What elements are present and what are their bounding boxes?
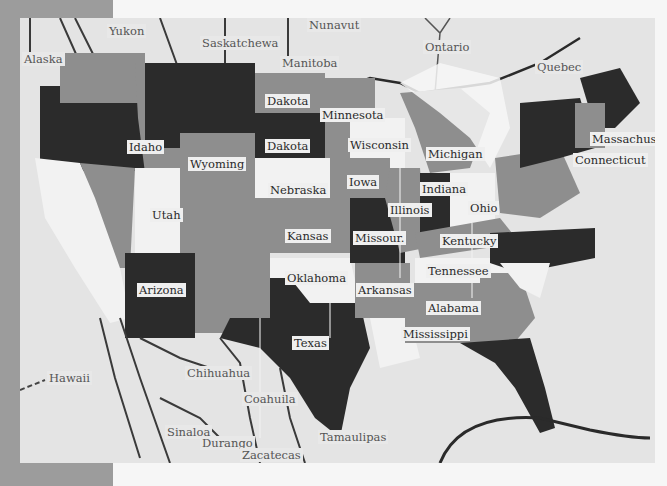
map-label-texas: Texas [292, 336, 329, 350]
map-label-indiana: Indiana [420, 182, 468, 196]
map-label-alaska: Alaska [22, 52, 65, 66]
map-label-kentucky: Kentucky [440, 234, 498, 248]
map-label-chihuahua: Chihuahua [185, 366, 252, 380]
map-shapes [20, 18, 655, 463]
map-label-yukon: Yukon [107, 24, 146, 38]
map-label-wisconsin: Wisconsin [348, 138, 411, 152]
map-label-nunavut: Nunavut [307, 18, 361, 32]
frame-top-border [0, 0, 113, 18]
map-label-alabama: Alabama [426, 301, 481, 315]
map-label-north-dakota: Dakota [265, 94, 310, 108]
map-label-michigan: Michigan [426, 147, 485, 161]
map-painting: Alaska Yukon Saskatchewa Nunavut Manitob… [20, 18, 655, 463]
map-label-wyoming: Wyoming [188, 157, 246, 171]
map-label-saskatchewan: Saskatchewa [200, 36, 280, 50]
map-label-kansas: Kansas [285, 229, 331, 243]
map-label-arkansas: Arkansas [356, 283, 414, 297]
map-label-hawaii: Hawaii [47, 371, 92, 385]
map-label-minnesota: Minnesota [320, 108, 385, 122]
map-label-quebec: Quebec [535, 60, 583, 74]
map-label-missouri: Missour. [353, 231, 406, 245]
map-label-arizona: Arizona [137, 283, 186, 297]
frame-left-border [0, 0, 20, 486]
map-label-zacatecas: Zacatecas [240, 448, 303, 462]
map-label-south-dakota: Dakota [265, 139, 310, 153]
map-label-mississippi: Mississippi [401, 327, 470, 341]
frame-bottom-border [0, 463, 113, 486]
map-label-illinois: Illinois [388, 203, 432, 217]
map-label-connecticut: Connecticut [573, 153, 648, 167]
map-label-ohio: Ohio [468, 201, 499, 215]
map-label-tennessee: Tennessee [426, 264, 491, 278]
map-label-nebraska: Nebraska [268, 183, 328, 197]
map-label-massachusetts: Massachusett [590, 132, 655, 146]
map-label-oklahoma: Oklahoma [285, 271, 348, 285]
map-label-iowa: Iowa [347, 175, 379, 189]
map-label-utah: Utah [150, 208, 183, 222]
map-label-ontario: Ontario [423, 40, 471, 54]
map-label-coahuila: Coahuila [242, 392, 298, 406]
map-label-manitoba: Manitoba [280, 56, 339, 70]
map-label-idaho: Idaho [127, 140, 164, 154]
map-label-tamaulipas: Tamaulipas [318, 430, 388, 444]
